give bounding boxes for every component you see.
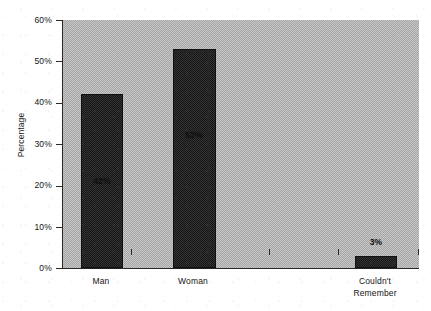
x-tick-mark-4 bbox=[338, 249, 339, 255]
y-tick-label-30: 30% bbox=[18, 140, 52, 149]
y-tick-label-60: 60% bbox=[18, 16, 52, 25]
y-tick-label-0: 0% bbox=[18, 264, 52, 273]
bar-value-label-man: 42% bbox=[93, 176, 111, 186]
plot-area: 42% 53% 3% bbox=[62, 20, 419, 269]
x-tick-label-woman: Woman bbox=[178, 276, 208, 288]
y-tick-label-40: 40% bbox=[18, 98, 52, 107]
bar-chart-figure: Percentage 60% 50% 40% 30% 20% 10% 0% 42… bbox=[0, 0, 431, 311]
x-tick-mark-5 bbox=[418, 249, 419, 255]
bar-couldnt-remember[interactable] bbox=[355, 256, 397, 268]
x-tick-label-couldnt-remember: Couldn't Remember bbox=[353, 276, 396, 299]
bar-value-label-couldnt-remember: 3% bbox=[370, 237, 383, 247]
x-tick-label-couldnt-remember-line1: Couldn't bbox=[359, 276, 391, 286]
bar-value-label-woman: 53% bbox=[185, 130, 203, 140]
x-tick-label-couldnt-remember-line2: Remember bbox=[353, 288, 396, 300]
x-tick-label-woman-line1: Woman bbox=[178, 276, 208, 286]
x-tick-mark-1 bbox=[131, 249, 132, 255]
x-tick-mark-3 bbox=[269, 249, 270, 255]
x-tick-label-man: Man bbox=[93, 276, 110, 288]
y-axis-tick-labels: 60% 50% 40% 30% 20% 10% 0% bbox=[18, 0, 52, 311]
y-tick-label-50: 50% bbox=[18, 57, 52, 66]
y-tick-label-20: 20% bbox=[18, 181, 52, 190]
x-tick-mark-2 bbox=[200, 249, 201, 255]
bar-woman[interactable] bbox=[173, 49, 216, 268]
x-tick-label-man-line1: Man bbox=[93, 276, 110, 286]
x-tick-mark-0 bbox=[62, 249, 63, 255]
y-tick-label-10: 10% bbox=[18, 223, 52, 232]
